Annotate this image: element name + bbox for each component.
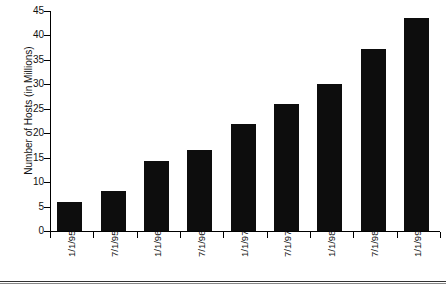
x-axis-tick-label-text: 1/1/96 — [153, 231, 163, 257]
page-divider-rule-secondary — [0, 283, 446, 284]
x-axis-tick-label-text: 1/1/95 — [67, 231, 77, 257]
y-axis-tick-label: 45 — [18, 6, 44, 16]
x-axis-tick — [93, 232, 94, 238]
x-axis-tick-label: 7/1/97 — [283, 243, 293, 257]
x-axis-tick — [397, 232, 398, 238]
x-axis-tick — [267, 232, 268, 238]
bar — [101, 191, 126, 231]
x-axis-tick-label-text: 1/1/97 — [240, 231, 250, 257]
x-axis-tick-label: 1/1/99 — [413, 243, 423, 257]
x-axis-tick — [353, 232, 354, 238]
x-axis-tick-label-text: 1/1/98 — [327, 231, 337, 257]
bar — [361, 49, 386, 231]
x-axis-tick-label: 7/1/95 — [110, 243, 120, 257]
x-axis-tick-label: 1/1/96 — [153, 243, 163, 257]
bar — [274, 104, 299, 231]
y-axis-tick-label: 5 — [18, 202, 44, 212]
y-axis-tick-label: 40 — [18, 30, 44, 40]
x-axis-tick-label-text: 7/1/98 — [370, 231, 380, 257]
y-axis-tick-label: 15 — [18, 153, 44, 163]
x-axis-tick-label: 1/1/97 — [240, 243, 250, 257]
bar — [317, 84, 342, 231]
bar — [144, 161, 169, 231]
x-axis-tick-label: 7/1/98 — [370, 243, 380, 257]
x-axis-tick — [137, 232, 138, 238]
x-axis-tick-label: 1/1/98 — [327, 243, 337, 257]
x-axis-tick-label-text: 7/1/95 — [110, 231, 120, 257]
bar — [231, 124, 256, 231]
x-axis-tick — [223, 232, 224, 238]
bar-chart-figure: Number of Hosts (in Millions) 4540353025… — [0, 0, 446, 296]
x-axis-tick-label: 1/1/95 — [67, 243, 77, 257]
x-axis-tick-label-text: 7/1/97 — [283, 231, 293, 257]
bar — [404, 18, 429, 231]
bar — [187, 150, 212, 231]
y-axis-tick-label: 0 — [18, 226, 44, 236]
x-axis-tick-label-text: 1/1/99 — [413, 231, 423, 257]
x-axis-tick-label: 7/1/96 — [197, 243, 207, 257]
bar-series — [50, 11, 440, 231]
x-axis-tick — [310, 232, 311, 238]
x-axis-tick — [50, 232, 51, 238]
x-axis-tick — [440, 232, 441, 238]
y-axis-tick-label: 10 — [18, 177, 44, 187]
x-axis-tick — [180, 232, 181, 238]
y-axis-tick-label: 20 — [18, 128, 44, 138]
y-axis-tick-label: 35 — [18, 55, 44, 65]
x-axis-tick-label-text: 7/1/96 — [197, 231, 207, 257]
y-axis-tick-label: 25 — [18, 104, 44, 114]
page-divider-rule — [0, 281, 446, 282]
bar — [57, 202, 82, 231]
y-axis-tick-label: 30 — [18, 79, 44, 89]
